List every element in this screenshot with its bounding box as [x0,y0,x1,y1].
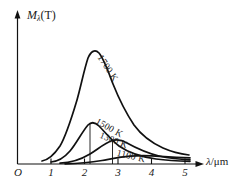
y-axis-label-symbol: M [27,8,37,22]
y-axis-arrow-icon [15,10,21,19]
x-axis-arrow-icon [196,161,205,167]
origin-label: O [11,166,25,178]
x-axis-label: λ/μm [206,155,228,167]
x-axis-label-unit: μm [214,155,228,167]
blackbody-radiation-chart: Mλ(T) λ/μm O 1 2 3 4 5 1700 K 1500 K 130… [0,0,250,188]
y-axis-label: Mλ(T) [27,8,56,23]
x-tick-label-1: 1 [44,166,58,178]
x-tick-label-3: 3 [111,166,125,178]
x-tick-label-2: 2 [78,166,92,178]
x-tick-label-4: 4 [145,166,159,178]
y-axis-label-argument: (T) [40,8,55,22]
x-tick-label-5: 5 [178,166,192,178]
